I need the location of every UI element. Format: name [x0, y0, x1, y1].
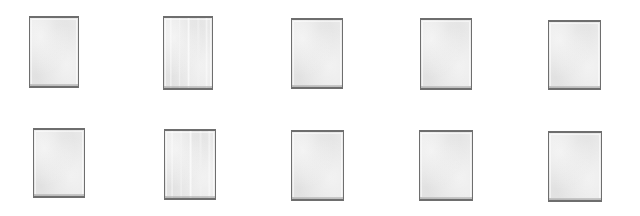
specimen-card[interactable]: [164, 129, 216, 200]
card-surface: [421, 20, 471, 88]
specimen-card[interactable]: [420, 18, 472, 90]
specimen-card[interactable]: [29, 16, 79, 88]
specimen-card[interactable]: [548, 20, 601, 90]
card-surface: [34, 130, 84, 196]
card-surface: [292, 20, 342, 87]
card-surface: [420, 132, 472, 199]
card-surface: [30, 18, 78, 86]
specimen-card[interactable]: [548, 131, 602, 202]
card-surface: [164, 18, 212, 88]
specimen-sheet: [0, 0, 640, 216]
card-surface: [549, 22, 600, 88]
specimen-card[interactable]: [419, 130, 473, 201]
specimen-card[interactable]: [291, 18, 343, 89]
card-surface: [165, 131, 215, 198]
specimen-card[interactable]: [33, 128, 85, 198]
card-surface: [292, 132, 343, 199]
card-surface: [549, 133, 601, 200]
specimen-card[interactable]: [163, 16, 213, 90]
specimen-card[interactable]: [291, 130, 344, 201]
